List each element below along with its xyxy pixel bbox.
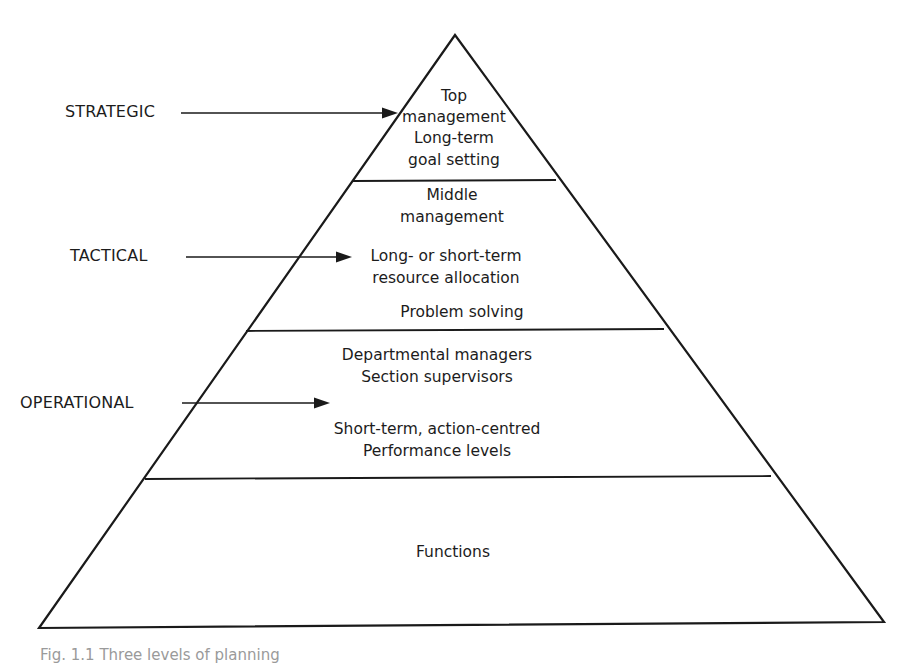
tier-text: Functions [416, 542, 490, 562]
tier-divider-3 [145, 476, 771, 479]
tier-text: management [400, 207, 504, 227]
tier-text: Section supervisors [361, 367, 513, 387]
level-label-tactical: TACTICAL [70, 246, 148, 265]
tier-text: Top [441, 86, 467, 106]
tier-text: Short-term, action-centred [334, 419, 541, 439]
arrow-tactical [186, 252, 352, 263]
arrow-strategic [181, 108, 398, 119]
level-label-strategic: STRATEGIC [65, 102, 155, 121]
tier-text: Long- or short-term [370, 246, 521, 266]
tier-divider-1 [352, 180, 556, 181]
tier-text: Departmental managers [342, 345, 532, 365]
level-label-operational: OPERATIONAL [20, 393, 134, 412]
tier-text: Performance levels [363, 441, 511, 461]
tier-text: Middle [426, 185, 477, 205]
figure-caption: Fig. 1.1 Three levels of planning [40, 646, 280, 664]
tier-text: goal setting [408, 150, 500, 170]
tier-divider-2 [246, 329, 664, 331]
tier-text: management [402, 107, 506, 127]
arrow-operational [182, 398, 330, 409]
tier-text: Problem solving [400, 302, 523, 322]
tier-text: resource allocation [372, 268, 519, 288]
tier-text: Long-term [414, 128, 494, 148]
